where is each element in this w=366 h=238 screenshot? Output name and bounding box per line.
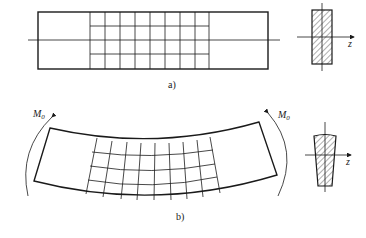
bent-grid-lines bbox=[86, 137, 220, 200]
figure-b: M0 M0 z b) bbox=[26, 108, 351, 223]
moment-label-left: M0 bbox=[32, 108, 45, 121]
moment-label-right: M0 bbox=[277, 109, 290, 122]
figure-a: z a) bbox=[28, 3, 354, 91]
z-axis-label-b: z bbox=[345, 156, 350, 167]
z-axis-label-a: z bbox=[347, 38, 352, 49]
cross-section-b: z bbox=[305, 122, 351, 192]
grid-lines bbox=[90, 12, 209, 69]
bent-beam-outline bbox=[34, 122, 277, 195]
cross-section-a: z bbox=[297, 3, 354, 71]
figure-a-caption: a) bbox=[168, 79, 176, 91]
pure-bending-diagram: z a) M0 M0 bbox=[0, 0, 366, 238]
figure-b-caption: b) bbox=[176, 211, 184, 223]
beam-outline bbox=[38, 12, 268, 69]
moment-arrow-right bbox=[268, 113, 287, 196]
